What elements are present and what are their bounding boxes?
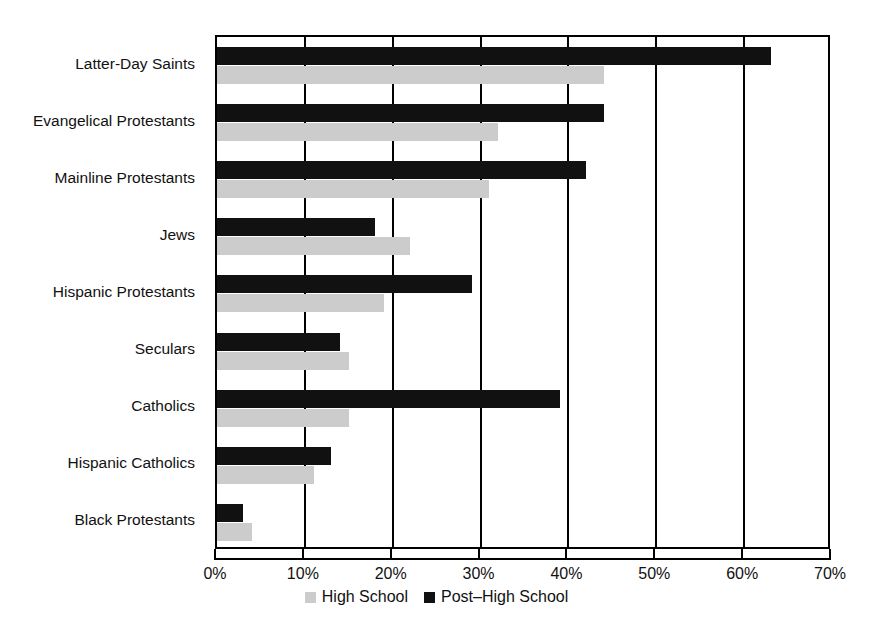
y-axis-label: Hispanic Catholics xyxy=(68,455,206,471)
y-axis-label: Catholics xyxy=(131,398,205,414)
x-axis-tick xyxy=(829,549,831,560)
bar-high-school xyxy=(217,294,384,312)
bar-high-school xyxy=(217,523,252,541)
bar-group xyxy=(217,494,828,551)
bar-group xyxy=(217,437,828,494)
bar-high-school xyxy=(217,237,410,255)
plot-area xyxy=(215,35,830,549)
bar-post-high-school xyxy=(217,504,243,522)
bar-group xyxy=(217,37,828,94)
x-axis-tick xyxy=(741,549,743,560)
bar-post-high-school xyxy=(217,218,375,236)
bar-group xyxy=(217,151,828,208)
x-axis-tick-label: 20% xyxy=(375,565,407,583)
bar-high-school xyxy=(217,123,498,141)
legend-swatch-gray-icon xyxy=(305,592,316,603)
bar-post-high-school xyxy=(217,275,472,293)
bar-post-high-school xyxy=(217,447,331,465)
x-axis-tick xyxy=(390,549,392,560)
legend-label: High School xyxy=(322,588,408,606)
bar-post-high-school xyxy=(217,104,604,122)
y-axis-label: Jews xyxy=(160,227,205,243)
x-axis-tick-label: 30% xyxy=(463,565,495,583)
x-axis-tick-label: 0% xyxy=(203,565,226,583)
x-axis-tick-label: 70% xyxy=(814,565,846,583)
legend-label: Post–High School xyxy=(441,588,568,606)
bar-high-school xyxy=(217,466,314,484)
y-axis-label: Hispanic Protestants xyxy=(53,284,205,300)
y-axis-label: Evangelical Protestants xyxy=(33,113,205,129)
bar-high-school xyxy=(217,180,489,198)
x-axis-tick-label: 40% xyxy=(550,565,582,583)
y-axis-label: Mainline Protestants xyxy=(55,170,205,186)
bar-group xyxy=(217,380,828,437)
bar-chart: Latter-Day SaintsEvangelical Protestants… xyxy=(0,0,873,626)
x-axis: 0%10%20%30%40%50%60%70% xyxy=(215,549,830,550)
bar-group xyxy=(217,94,828,151)
bar-post-high-school xyxy=(217,390,560,408)
y-axis-category-labels: Latter-Day SaintsEvangelical Protestants… xyxy=(0,35,205,549)
x-axis-tick xyxy=(653,549,655,560)
x-axis-tick-label: 60% xyxy=(726,565,758,583)
x-axis-tick xyxy=(565,549,567,560)
bar-high-school xyxy=(217,409,349,427)
bar-group xyxy=(217,265,828,322)
chart-legend: High SchoolPost–High School xyxy=(0,588,873,606)
x-axis-line xyxy=(215,558,830,560)
legend-item: High School xyxy=(305,588,408,606)
y-axis-label: Seculars xyxy=(135,341,205,357)
bar-high-school xyxy=(217,352,349,370)
bar-high-school xyxy=(217,66,604,84)
y-axis-label: Latter-Day Saints xyxy=(75,56,205,72)
bar-group xyxy=(217,208,828,265)
x-axis-tick-label: 10% xyxy=(287,565,319,583)
legend-swatch-black-icon xyxy=(424,592,435,603)
x-axis-tick-label: 50% xyxy=(638,565,670,583)
y-axis-label: Black Protestants xyxy=(74,512,205,528)
bar-post-high-school xyxy=(217,161,586,179)
legend-item: Post–High School xyxy=(424,588,568,606)
x-axis-tick xyxy=(478,549,480,560)
x-axis-tick xyxy=(302,549,304,560)
bar-post-high-school xyxy=(217,333,340,351)
bar-group xyxy=(217,323,828,380)
x-axis-tick xyxy=(214,549,216,560)
bar-post-high-school xyxy=(217,47,771,65)
